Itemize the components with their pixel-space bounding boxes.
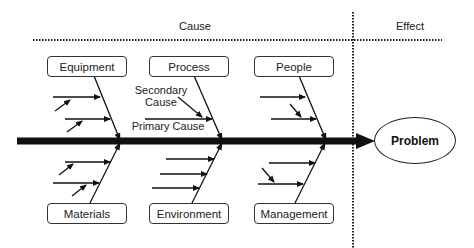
- category-process: Process: [149, 56, 229, 77]
- cause-header: Cause: [165, 20, 225, 32]
- category-environment: Environment: [149, 203, 229, 224]
- problem-effect: Problem: [374, 117, 456, 164]
- secondary-cause-label: Secondary Cause: [130, 84, 192, 108]
- category-materials: Materials: [47, 203, 127, 224]
- category-equipment: Equipment: [47, 56, 127, 77]
- spine-arrowhead: [356, 133, 375, 149]
- category-management: Management: [254, 203, 334, 224]
- primary-cause-label: Primary Cause: [128, 120, 208, 132]
- effect-header: Effect: [380, 20, 440, 32]
- category-people: People: [254, 56, 334, 77]
